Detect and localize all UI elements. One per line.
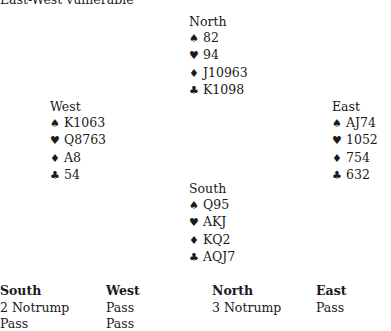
heart-icon: ♥ xyxy=(332,133,346,149)
spades-row: ♠Q95 xyxy=(189,197,235,214)
vulnerability-note: East-West vulnerable xyxy=(0,0,134,7)
diamond-icon: ♦ xyxy=(189,233,203,249)
diamond-icon: ♦ xyxy=(189,66,203,82)
auction-column-north: North 3 Notrump xyxy=(212,283,281,316)
auction-column-west: West Pass Pass xyxy=(106,283,140,331)
hearts-holding: Q8763 xyxy=(64,132,106,147)
spade-icon: ♠ xyxy=(50,116,64,132)
spades-row: ♠AJ74 xyxy=(332,115,378,132)
spade-icon: ♠ xyxy=(189,198,203,214)
diamonds-row: ♦J10963 xyxy=(189,65,248,82)
clubs-row: ♣AQJ7 xyxy=(189,249,235,266)
diamonds-holding: A8 xyxy=(64,150,81,165)
auction-column-east: East Pass xyxy=(316,283,346,316)
spade-icon: ♠ xyxy=(189,31,203,47)
diamond-icon: ♦ xyxy=(332,151,346,167)
diamonds-row: ♦A8 xyxy=(50,150,106,167)
spades-holding: 82 xyxy=(203,30,219,45)
clubs-holding: 632 xyxy=(346,167,370,182)
club-icon: ♣ xyxy=(50,168,64,184)
club-icon: ♣ xyxy=(189,83,203,99)
hearts-holding: 1052 xyxy=(346,132,378,147)
heart-icon: ♥ xyxy=(189,48,203,64)
auction-header: East xyxy=(316,283,346,300)
clubs-holding: K1098 xyxy=(203,82,244,97)
diamonds-holding: J10963 xyxy=(203,65,248,80)
spade-icon: ♠ xyxy=(332,116,346,132)
clubs-row: ♣K1098 xyxy=(189,82,248,99)
spades-row: ♠82 xyxy=(189,30,248,47)
auction-bid: Pass xyxy=(0,316,69,331)
diamonds-row: ♦KQ2 xyxy=(189,232,235,249)
diamonds-row: ♦754 xyxy=(332,150,378,167)
auction-bid: 2 Notrump xyxy=(0,300,69,317)
auction-column-south: South 2 Notrump Pass xyxy=(0,283,69,331)
hearts-holding: AKJ xyxy=(203,214,226,229)
hand-west: West ♠K1063 ♥Q8763 ♦A8 ♣54 xyxy=(50,99,106,184)
auction-header: South xyxy=(0,283,69,300)
seat-name-east: East xyxy=(332,99,378,115)
diamonds-holding: 754 xyxy=(346,150,370,165)
hand-east: East ♠AJ74 ♥1052 ♦754 ♣632 xyxy=(332,99,378,184)
clubs-holding: 54 xyxy=(64,167,80,182)
spades-holding: AJ74 xyxy=(346,115,376,130)
clubs-row: ♣632 xyxy=(332,167,378,184)
hearts-row: ♥1052 xyxy=(332,132,378,149)
hearts-holding: 94 xyxy=(203,47,219,62)
club-icon: ♣ xyxy=(332,168,346,184)
hand-south: South ♠Q95 ♥AKJ ♦KQ2 ♣AQJ7 xyxy=(189,181,235,266)
auction-bid: Pass xyxy=(106,300,140,317)
spades-holding: Q95 xyxy=(203,197,229,212)
clubs-holding: AQJ7 xyxy=(203,249,235,264)
auction-bid: Pass xyxy=(316,300,346,317)
diamonds-holding: KQ2 xyxy=(203,232,231,247)
hand-north: North ♠82 ♥94 ♦J10963 ♣K1098 xyxy=(189,14,248,99)
clubs-row: ♣54 xyxy=(50,167,106,184)
auction-header: West xyxy=(106,283,140,300)
spades-row: ♠K1063 xyxy=(50,115,106,132)
heart-icon: ♥ xyxy=(50,133,64,149)
diamond-icon: ♦ xyxy=(50,151,64,167)
hearts-row: ♥94 xyxy=(189,47,248,64)
seat-name-west: West xyxy=(50,99,106,115)
auction-bid: 3 Notrump xyxy=(212,300,281,317)
spades-holding: K1063 xyxy=(64,115,105,130)
hearts-row: ♥Q8763 xyxy=(50,132,106,149)
seat-name-north: North xyxy=(189,14,248,30)
club-icon: ♣ xyxy=(189,250,203,266)
auction-bid: Pass xyxy=(106,316,140,331)
seat-name-south: South xyxy=(189,181,235,197)
auction-header: North xyxy=(212,283,281,300)
hearts-row: ♥AKJ xyxy=(189,214,235,231)
heart-icon: ♥ xyxy=(189,215,203,231)
